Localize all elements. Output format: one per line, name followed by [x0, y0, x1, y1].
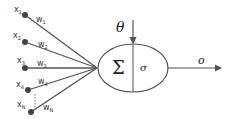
input-label: x3	[17, 56, 25, 66]
weight-label: w2	[38, 40, 48, 50]
weight-label: wN	[43, 103, 54, 113]
input-connection	[25, 42, 97, 68]
input-connection	[31, 68, 97, 112]
weight-label: w4	[38, 77, 48, 87]
neuron-diagram: x1w1x2w2x3w3x4w4xNwN θ Σ σ o	[0, 0, 237, 119]
weight-label: w1	[36, 15, 46, 25]
input-node	[25, 87, 31, 93]
input-connections: x1w1x2w2x3w3x4w4xNwN	[13, 5, 97, 115]
weight-label: w3	[37, 59, 47, 69]
input-label: x2	[13, 31, 21, 41]
sum-symbol: Σ	[112, 57, 125, 78]
input-node	[22, 12, 28, 18]
input-label: x1	[14, 5, 22, 15]
neuron-diagram-svg: x1w1x2w2x3w3x4w4xNwN θ Σ σ o	[0, 0, 237, 119]
bias-label: θ	[116, 19, 125, 35]
activation-symbol: σ	[140, 62, 148, 73]
output-label: o	[198, 54, 205, 67]
input-node	[22, 39, 28, 45]
input-node	[28, 109, 34, 115]
input-label: xN	[17, 100, 26, 110]
input-label: x4	[16, 80, 24, 90]
